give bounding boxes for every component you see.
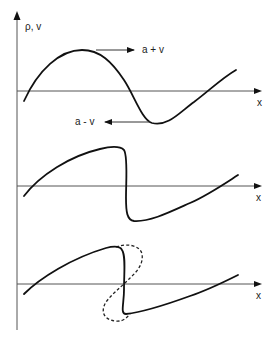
x-axis-label-3: x — [256, 290, 261, 301]
steepened-wave-curve — [24, 147, 238, 221]
y-axis-arrowhead-icon — [14, 11, 21, 20]
x-axis-label-2: x — [256, 192, 261, 203]
panel-steepened: x — [17, 147, 262, 221]
panel-initial: x a + v a - v — [17, 44, 262, 127]
x-axis-arrowhead-icon-1 — [254, 88, 262, 94]
panel-overturned: x — [17, 245, 262, 321]
speed-label-a-plus-v: a + v — [142, 44, 164, 55]
shock-wave-curve — [24, 247, 238, 314]
x-axis-arrowhead-icon-2 — [254, 183, 262, 189]
speed-label-a-minus-v: a - v — [75, 116, 94, 127]
x-axis-label-1: x — [257, 97, 262, 108]
wave-breaking-diagram: ρ, v x a + v a - v x x — [0, 0, 277, 346]
y-axis-label: ρ, v — [25, 21, 41, 32]
initial-wave-curve — [24, 50, 236, 124]
x-axis-arrowhead-icon-3 — [254, 281, 262, 287]
